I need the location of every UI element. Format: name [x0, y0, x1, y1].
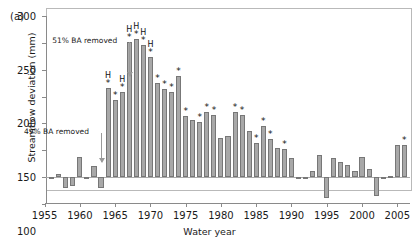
- significance-star-marker: *: [155, 75, 160, 81]
- bar: [98, 177, 103, 188]
- significance-star-marker: *: [233, 104, 238, 110]
- significance-star-marker: *: [141, 37, 146, 43]
- significance-star-marker: *: [134, 31, 139, 37]
- bar: [345, 165, 350, 177]
- x-tick-label: 1960: [67, 210, 92, 221]
- figure-panel: (a) Streamflow deviation (mm) −500501001…: [0, 0, 419, 250]
- bar: [77, 157, 82, 177]
- significance-star-marker: *: [176, 68, 181, 74]
- y-tick-label: 150: [17, 172, 36, 183]
- x-tick: [221, 203, 222, 207]
- x-tick: [291, 203, 292, 207]
- bar: [120, 92, 125, 177]
- x-tick: [186, 203, 187, 207]
- y-tick: 100: [42, 123, 46, 124]
- harvest-h-marker: H: [133, 23, 139, 30]
- x-tick: [150, 203, 151, 207]
- significance-star-marker: *: [268, 131, 273, 137]
- bar: [91, 166, 96, 177]
- x-tick: [397, 203, 398, 207]
- significance-star-marker: *: [205, 104, 210, 110]
- harvest-h-marker: H: [126, 26, 132, 33]
- y-tick: 200: [42, 70, 46, 71]
- bar: [395, 145, 400, 177]
- bar: [268, 139, 273, 177]
- x-tick-label: 2000: [349, 210, 374, 221]
- bar: [176, 76, 181, 177]
- x-axis-label: Water year: [0, 226, 419, 237]
- significance-star-marker: *: [240, 107, 245, 113]
- bar: [106, 88, 111, 177]
- significance-star-marker: *: [183, 108, 188, 114]
- x-axis-line: [46, 203, 410, 204]
- bar: [197, 122, 202, 177]
- significance-star-marker: *: [127, 34, 132, 40]
- bar: [275, 148, 280, 177]
- bar: [141, 45, 146, 177]
- bar: [162, 89, 167, 178]
- x-tick: [327, 203, 328, 207]
- y-tick: 300: [42, 16, 46, 17]
- x-tick-label: 1965: [102, 210, 127, 221]
- x-tick: [256, 203, 257, 207]
- significance-star-marker: *: [254, 135, 259, 141]
- bar: [310, 171, 315, 177]
- bar: [233, 112, 238, 177]
- bar: [190, 120, 195, 177]
- y-tick: 50: [42, 150, 46, 151]
- bar: [317, 155, 322, 177]
- significance-star-marker: *: [198, 114, 203, 120]
- bar: [282, 149, 287, 177]
- bar: [84, 177, 89, 179]
- bar: [225, 136, 230, 177]
- bar: [289, 158, 294, 177]
- significance-star-marker: *: [113, 92, 118, 98]
- bar: [204, 112, 209, 177]
- bar: [70, 177, 75, 186]
- bar: [155, 83, 160, 178]
- significance-star-marker: *: [169, 84, 174, 90]
- plot-area: −50050100150200250300 195519601965197019…: [46, 16, 410, 204]
- bar: [63, 177, 68, 188]
- x-tick: [362, 203, 363, 207]
- y-tick: 250: [42, 43, 46, 44]
- significance-star-marker: *: [261, 118, 266, 124]
- significance-star-marker: *: [106, 80, 111, 86]
- annotation-label: 49% BA removed: [24, 127, 89, 136]
- bar: [169, 92, 174, 177]
- x-tick-label: 1975: [173, 210, 198, 221]
- x-tick: [115, 203, 116, 207]
- x-tick-label: 1955: [32, 210, 57, 221]
- significance-star-marker: *: [402, 137, 407, 143]
- bar: [56, 174, 61, 177]
- bar: [374, 177, 379, 196]
- bar: [49, 177, 54, 179]
- bar: [296, 177, 301, 179]
- bar: [338, 162, 343, 178]
- x-tick-label: 1990: [279, 210, 304, 221]
- bar: [352, 171, 357, 177]
- bar: [113, 100, 118, 177]
- harvest-h-marker: H: [140, 29, 146, 36]
- harvest-h-marker: H: [119, 76, 125, 83]
- bar: [254, 143, 259, 177]
- x-tick: [80, 203, 81, 207]
- x-tick-label: 1995: [314, 210, 339, 221]
- bar: [381, 177, 386, 179]
- significance-star-marker: *: [120, 84, 125, 90]
- bar: [247, 131, 252, 177]
- x-tick-label: 1980: [208, 210, 233, 221]
- bar: [331, 158, 336, 177]
- bar: [183, 116, 188, 177]
- significance-star-marker: *: [148, 49, 153, 55]
- annotation-arrow: [129, 42, 130, 76]
- bar: [324, 177, 329, 197]
- harvest-h-marker: H: [147, 41, 153, 48]
- x-tick: [45, 203, 46, 207]
- y-tick: 0: [42, 177, 46, 178]
- significance-star-marker: *: [212, 107, 217, 113]
- bar: [359, 157, 364, 177]
- x-tick-label: 1970: [138, 210, 163, 221]
- bar: [134, 39, 139, 177]
- bar: [367, 169, 372, 177]
